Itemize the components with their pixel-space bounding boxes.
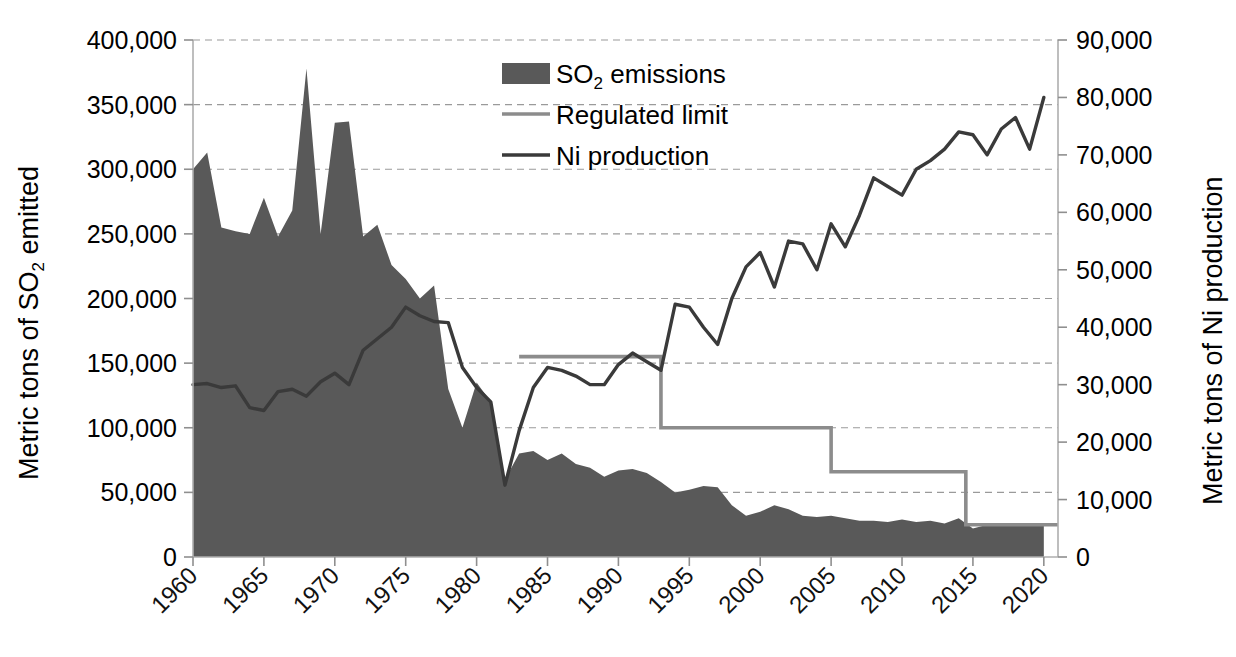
so2-ni-production-chart: 050,000100,000150,000200,000250,000300,0… — [0, 0, 1236, 657]
right-axis-title-text: Metric tons of Ni production — [1198, 176, 1228, 505]
right-tick-label: 70,000 — [1076, 141, 1152, 169]
left-tick-label: 150,000 — [87, 349, 177, 377]
right-tick-label: 0 — [1076, 543, 1090, 571]
left-tick-label: 400,000 — [87, 26, 177, 54]
right-tick-label: 60,000 — [1076, 198, 1152, 226]
left-tick-label: 350,000 — [87, 91, 177, 119]
right-tick-label: 40,000 — [1076, 313, 1152, 341]
left-axis-tick-labels: 050,000100,000150,000200,000250,000300,0… — [87, 26, 177, 571]
legend-label-main: SO — [556, 59, 594, 89]
left-axis-title-tail: emitted — [14, 166, 44, 262]
left-tick-label: 300,000 — [87, 155, 177, 183]
legend-label: Ni production — [556, 141, 709, 171]
left-tick-label: 50,000 — [101, 478, 177, 506]
legend-label-subscript: 2 — [594, 74, 603, 93]
chart-legend: SO2 emissionsRegulated limitNi productio… — [502, 59, 729, 171]
left-tick-label: 250,000 — [87, 220, 177, 248]
left-axis-title-subscript: 2 — [29, 262, 48, 271]
right-tick-label: 30,000 — [1076, 371, 1152, 399]
right-tick-label: 90,000 — [1076, 26, 1152, 54]
right-tick-label: 80,000 — [1076, 83, 1152, 111]
chart-container: 050,000100,000150,000200,000250,000300,0… — [0, 0, 1236, 657]
right-tick-label: 20,000 — [1076, 428, 1152, 456]
right-tick-label: 10,000 — [1076, 486, 1152, 514]
legend-label: SO2 emissions — [556, 59, 726, 93]
legend-label-main: Regulated limit — [556, 100, 729, 130]
legend-label: Regulated limit — [556, 100, 729, 130]
left-axis-title: Metric tons of SO2 emitted — [14, 166, 48, 480]
left-tick-label: 100,000 — [87, 414, 177, 442]
right-tick-label: 50,000 — [1076, 256, 1152, 284]
legend-label-main: Ni production — [556, 141, 709, 171]
left-axis-title-main: Metric tons of SO — [14, 271, 44, 480]
svg-text:Metric tons of SO2 emitted: Metric tons of SO2 emitted — [14, 166, 48, 480]
left-tick-label: 0 — [163, 543, 177, 571]
right-axis-title: Metric tons of Ni production — [1198, 176, 1228, 505]
left-tick-label: 200,000 — [87, 285, 177, 313]
legend-swatch — [502, 63, 550, 84]
legend-label-tail: emissions — [603, 59, 726, 89]
